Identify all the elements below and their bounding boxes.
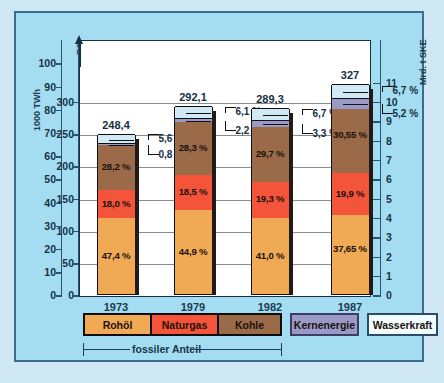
left-outer-tick	[56, 63, 62, 64]
bar-shadow	[369, 89, 373, 296]
right-tick-label: 4	[386, 212, 410, 224]
bar-1973[interactable]: 47,4 %18,0 %28,2 %	[97, 135, 136, 295]
segment-percent-label: 37,65 %	[332, 244, 369, 255]
right-axis-caption: Mrd. t SKE	[418, 39, 428, 85]
segment-rohl-1982[interactable]: 41,0 %	[252, 218, 289, 294]
left-outer-tick-label: 90	[16, 81, 56, 93]
legend-label-naturgas: Naturgas	[162, 319, 208, 331]
right-tick-label: 2	[386, 251, 410, 263]
segment-percent-label: 29,7 %	[252, 149, 289, 160]
callout-leader	[302, 133, 313, 134]
segment-kohle-1973[interactable]: 28,2 %	[98, 145, 135, 190]
left-inner-tick	[72, 102, 79, 103]
callout-leader	[382, 86, 393, 87]
left-inner-tick	[72, 199, 79, 200]
callout-wasserkraft-1987: 6,7 %	[393, 85, 419, 96]
bar-1979[interactable]: 44,9 %18,5 %28,3 %	[174, 107, 213, 295]
segment-percent-label: 44,9 %	[175, 247, 212, 258]
segment-naturgas-1987[interactable]: 19,9 %	[332, 173, 369, 215]
legend-item-naturgas[interactable]: Naturgas	[150, 315, 217, 334]
segment-naturgas-1973[interactable]: 18,0 %	[98, 190, 135, 219]
y-axis-arrow-stem	[79, 43, 81, 67]
callout-leader	[186, 121, 211, 122]
left-outer-tick-label: 100	[16, 57, 56, 69]
left-outer-tick-label: 70	[16, 127, 56, 139]
segment-kohle-1987[interactable]: 30,55 %	[332, 109, 369, 173]
left-inner-tick	[72, 134, 79, 135]
left-outer-tick-label: 50	[16, 173, 56, 185]
left-outer-tick	[56, 87, 62, 88]
left-outer-tick-label: 10	[16, 266, 56, 278]
left-outer-tick-label: 20	[16, 243, 56, 255]
left-outer-tick-label: 40	[16, 197, 56, 209]
left-inner-tick	[72, 166, 79, 167]
left-outer-tick	[56, 110, 62, 111]
segment-percent-label: 19,3 %	[252, 194, 289, 205]
right-tick-label: 10	[386, 96, 410, 108]
segment-percent-label: 19,9 %	[332, 189, 369, 200]
callout-leader	[148, 134, 149, 140]
left-inner-tick	[72, 263, 79, 264]
segment-percent-label: 28,3 %	[175, 143, 212, 154]
right-tick-label: 1	[386, 270, 410, 282]
segment-wasserkraft-1973[interactable]	[98, 134, 135, 143]
left-outer-tick	[56, 226, 62, 227]
right-tick-label: 7	[386, 154, 410, 166]
segment-percent-label: 18,5 %	[175, 187, 212, 198]
segment-percent-label: 28,2 %	[98, 162, 135, 173]
callout-leader	[382, 104, 383, 113]
left-outer-tick-label: 60	[16, 150, 56, 162]
bar-1982[interactable]: 41,0 %19,3 %29,7 %	[251, 109, 290, 296]
callout-leader	[302, 109, 313, 110]
callout-leader	[148, 154, 159, 155]
callout-leader	[225, 121, 226, 130]
segment-wasserkraft-1979[interactable]	[175, 106, 212, 117]
fossil-bracket-line-right	[195, 349, 282, 350]
legend-item-kohle[interactable]: Kohle	[217, 315, 280, 334]
legend-label-kohle: Kohle	[235, 319, 264, 331]
fossil-bracket-line-left	[83, 349, 130, 350]
legend-label-kernenergie: Kernenergie	[294, 319, 355, 331]
bar-1987[interactable]: 37,65 %19,9 %30,55 %	[331, 85, 370, 296]
left-inner-tick	[72, 295, 79, 296]
callout-leader	[263, 124, 288, 125]
legend-label-wasserkraft: Wasserkraft	[373, 319, 433, 331]
segment-kohle-1982[interactable]: 29,7 %	[252, 127, 289, 182]
callout-leader	[109, 145, 134, 146]
left-inner-tick-label: 200	[36, 160, 74, 172]
segment-rohl-1987[interactable]: 37,65 %	[332, 215, 369, 294]
legend-item-rohoel[interactable]: Rohöl	[85, 315, 150, 334]
segment-kernenergie-1982[interactable]	[252, 120, 289, 126]
segment-naturgas-1982[interactable]: 19,3 %	[252, 182, 289, 218]
bar-total-label-1982: 289,3	[240, 93, 300, 105]
left-inner-tick	[72, 231, 79, 232]
right-tick-label: 8	[386, 135, 410, 147]
left-outer-tick-label: 80	[16, 104, 56, 116]
fossil-bracket-left-tick	[83, 343, 84, 356]
callout-leader	[302, 109, 303, 115]
bar-total-label-1987: 327	[320, 69, 380, 81]
segment-rohl-1979[interactable]: 44,9 %	[175, 210, 212, 295]
segment-rohl-1973[interactable]: 47,4 %	[98, 218, 135, 294]
segment-percent-label: 41,0 %	[252, 251, 289, 262]
right-axis-line	[380, 40, 381, 297]
right-tick-label: 6	[386, 173, 410, 185]
callout-leader	[109, 140, 134, 141]
segment-wasserkraft-1982[interactable]	[252, 108, 289, 120]
segment-percent-label: 30,55 %	[332, 130, 369, 141]
callout-leader	[148, 134, 159, 135]
left-outer-tick	[56, 295, 62, 296]
segment-naturgas-1979[interactable]: 18,5 %	[175, 175, 212, 210]
legend-item-kernenergie[interactable]: Kernenergie	[290, 313, 359, 336]
callout-leader	[186, 113, 211, 114]
legend-item-wasserkraft[interactable]: Wasserkraft	[367, 313, 438, 336]
left-outer-tick-label: 30	[16, 220, 56, 232]
right-tick-label: 5	[386, 193, 410, 205]
segment-kernenergie-1987[interactable]	[332, 98, 369, 109]
bar-shadow	[212, 111, 216, 295]
callout-leader	[225, 107, 236, 108]
bar-shadow	[289, 113, 293, 296]
callout-leader	[343, 104, 368, 105]
segment-kohle-1979[interactable]: 28,3 %	[175, 122, 212, 175]
left-outer-tick	[56, 133, 62, 134]
